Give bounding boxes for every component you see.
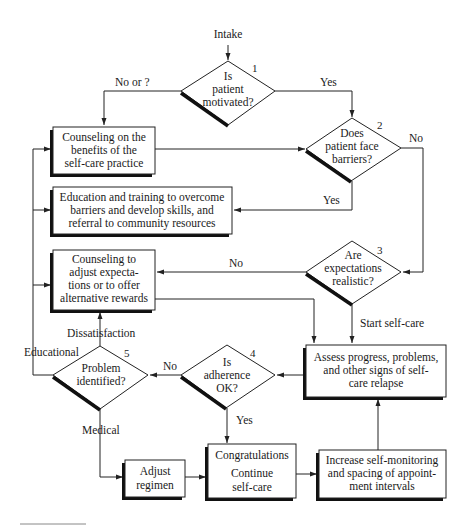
arrow-d5-medical (100, 409, 123, 477)
svg-text:Counseling on thebenefits of t: Counseling on thebenefits of theself-car… (62, 131, 146, 170)
arrow-d2-no (401, 148, 423, 272)
label-d5-educational: Educational (24, 346, 79, 358)
box-congratulations: CongratulationsContinueself-care (205, 444, 296, 501)
label-d4-yes: Yes (236, 414, 253, 426)
decision-2-barriers: Doespatient facebarriers? 2 (306, 118, 401, 182)
label-d3-yes: Start self-care (360, 317, 424, 329)
svg-text:4: 4 (250, 347, 256, 359)
arrow-d1-yes (275, 91, 352, 117)
box-education: Education and training to overcomebarrie… (50, 187, 232, 237)
box-counsel-benefits: Counseling on thebenefits of theself-car… (50, 127, 155, 177)
box-counsel-adjust: Counseling toadjust expecta-tions or to … (50, 250, 155, 313)
decision-4-adherence: IsadherenceOK? 4 (181, 345, 275, 409)
svg-text:3: 3 (377, 244, 383, 256)
label-d5-dissatisfaction: Dissatisfaction (67, 327, 136, 339)
intake-label: Intake (214, 28, 243, 40)
arrow-d1-no (104, 91, 181, 125)
decision-3-expectations: Areexpectationsrealistic? 3 (306, 241, 401, 305)
svg-text:Adjustregimen: Adjustregimen (136, 465, 174, 492)
svg-text:Counseling toadjust expecta-ti: Counseling toadjust expecta-tions or to … (60, 253, 148, 304)
label-d1-yes: Yes (320, 76, 337, 88)
decision-1-motivated: Ispatientmotivated? 1 (181, 61, 275, 126)
process-boxes: Counseling on thebenefits of theself-car… (50, 127, 446, 501)
box-adjust-regimen: Adjustregimen (122, 460, 185, 500)
svg-text:1: 1 (252, 62, 258, 74)
label-d3-no: No (229, 257, 243, 269)
label-d4-no: No (163, 360, 177, 372)
svg-text:Problemidentified?: Problemidentified? (76, 362, 125, 387)
box-increase-monitoring: Increase self-monitoringand spacing of a… (316, 450, 446, 501)
label-d2-yes: Yes (323, 194, 340, 206)
svg-text:2: 2 (377, 119, 383, 131)
label-d2-no: No (409, 132, 423, 144)
arrow-adjust-to-assess (155, 299, 314, 343)
flowchart-canvas: Counseling on thebenefits of theself-car… (0, 0, 468, 529)
box-assess: Assess progress, problems,and other sign… (303, 345, 446, 400)
svg-text:5: 5 (124, 347, 130, 359)
svg-text:Education and training to over: Education and training to overcomebarrie… (60, 191, 225, 230)
flowchart-svg: Counseling on thebenefits of theself-car… (0, 0, 468, 529)
label-d5-medical: Medical (82, 424, 120, 436)
label-d1-no: No or ? (115, 76, 150, 88)
